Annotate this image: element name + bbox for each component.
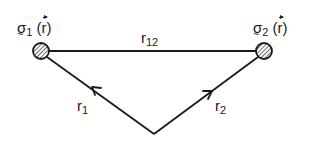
label-r1: r1 (77, 98, 88, 113)
vector-r: r (42, 20, 47, 35)
label-sigma2: σ2 (r) (253, 20, 288, 35)
label-sigma1: σ1 (r) (17, 20, 52, 35)
vector-r: r (278, 20, 283, 35)
label-r2: r2 (215, 98, 226, 113)
edge-r2 (154, 57, 258, 134)
edge-r1 (47, 57, 154, 134)
label-r12: r12 (141, 30, 158, 45)
node-sigma2 (256, 43, 272, 59)
node-sigma1 (33, 43, 49, 59)
